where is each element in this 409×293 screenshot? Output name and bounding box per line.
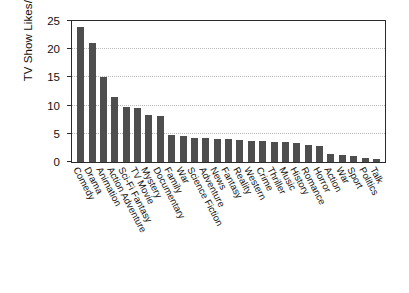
x-label-slot: Talk [371,165,382,290]
bar-slot [98,21,109,162]
x-label-slot: Fantasy [223,165,234,290]
bar-slot [143,21,154,162]
bar-slot [212,21,223,162]
bar-slot [268,21,279,162]
x-label-slot: History [291,165,302,290]
x-label-slot: Sci-Fi Fantasy [120,165,131,290]
bar [339,155,346,162]
bar-slot [177,21,188,162]
bar-slot [314,21,325,162]
plot-area: 0510152025 [71,20,386,163]
bar [248,141,255,162]
bar [327,154,334,162]
bar-slot [257,21,268,162]
bar [77,27,84,162]
bar-slot [325,21,336,162]
bar [271,142,278,162]
bar-slot [246,21,257,162]
x-label-slot: War [177,165,188,290]
bar [191,138,198,162]
x-axis-labels: ComedyDramaAnimationAction AdventureSci-… [71,165,386,290]
bar-slot [359,21,370,162]
x-label-slot: Action [326,165,337,290]
x-label-slot: Thriller [268,165,279,290]
bar-slot [75,21,86,162]
x-label-slot: Music [280,165,291,290]
x-label-slot: Horror [314,165,325,290]
bar-slot [291,21,302,162]
bar [89,43,96,162]
bar-slot [280,21,291,162]
bar-slot [109,21,120,162]
bar-series [72,21,385,162]
x-label-slot: Comedy [74,165,85,290]
bar [225,139,232,162]
x-label-slot: Drama [85,165,96,290]
y-tick-label: 5 [54,128,60,140]
y-tick-label: 0 [54,156,60,168]
bar [259,141,266,162]
bar [214,139,221,162]
bar-slot [303,21,314,162]
bar [134,108,141,162]
x-label-slot: Politics [360,165,371,290]
bar [202,138,209,162]
bar [111,97,118,162]
bar [293,143,300,162]
bar [145,115,152,162]
x-tick-label: Talk [368,165,386,185]
x-label-slot: Romance [303,165,314,290]
bar [350,156,357,162]
y-tick-label: 10 [47,100,60,112]
bar-slot [337,21,348,162]
x-label-slot: Adventure [200,165,211,290]
x-label-slot: Reality [234,165,245,290]
bar-slot [155,21,166,162]
bar-slot [371,21,382,162]
x-label-slot: TV Movie [131,165,142,290]
chart-page: TV Show Likes/# of Users 0510152025 Come… [0,0,409,293]
x-label-slot: Animation [97,165,108,290]
y-axis-title: TV Show Likes/# of Users [22,0,34,94]
bar-slot [132,21,143,162]
bar-slot [200,21,211,162]
bar-slot [348,21,359,162]
bar [282,142,289,162]
bar-slot [223,21,234,162]
bar [373,159,380,162]
y-tick-label: 20 [47,43,60,55]
x-label-slot: Documentary [154,165,165,290]
x-label-slot: Crime [257,165,268,290]
bar [157,116,164,162]
bar [305,145,312,162]
bar-slot [86,21,97,162]
bar [168,135,175,162]
y-tick-label: 25 [47,15,60,27]
bar-slot [189,21,200,162]
bar-slot [166,21,177,162]
x-label-slot: News [211,165,222,290]
bar [362,158,369,163]
x-label-slot: Action Adventure [108,165,119,290]
x-label-slot: Mystery [143,165,154,290]
x-label-slot: Western [246,165,257,290]
bar [100,77,107,162]
y-tick-label: 15 [47,71,60,83]
bar [316,146,323,162]
x-label-slot: Science Fiction [188,165,199,290]
x-label-slot: Family [166,165,177,290]
bar [180,136,187,162]
x-label-slot: Sport [349,165,360,290]
bar [123,107,130,162]
bar [236,140,243,162]
x-label-slot: War [337,165,348,290]
bar-slot [234,21,245,162]
bar-slot [121,21,132,162]
